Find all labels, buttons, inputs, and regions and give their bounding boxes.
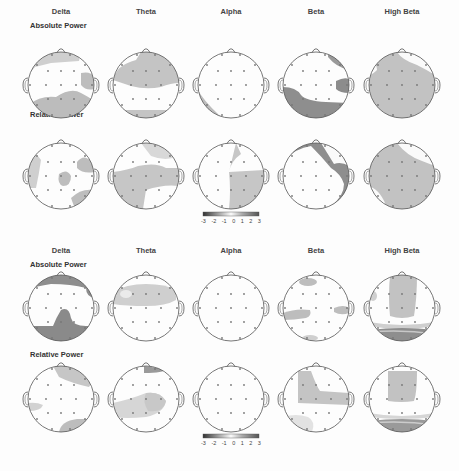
colorbar-1-ticks: -3 -2 -1 0 1 2 3 — [201, 218, 261, 224]
tick: -1 — [222, 218, 227, 224]
topomap-g2-abs-delta — [23, 272, 99, 341]
topomap-g1-rel-beta — [278, 140, 354, 209]
topomap-g2-rel-delta — [23, 363, 99, 432]
tick: 3 — [258, 218, 261, 224]
tick: -1 — [222, 440, 227, 446]
colorbar-2-ticks: -3 -2 -1 0 1 2 3 — [201, 440, 261, 446]
tick: 2 — [249, 218, 252, 224]
tick: -2 — [211, 440, 216, 446]
topomap-g1-abs-delta — [23, 49, 99, 118]
tick: -3 — [201, 440, 206, 446]
tick: 1 — [241, 218, 244, 224]
colorbar-2 — [203, 434, 259, 438]
topomap-g2-rel-alpha — [193, 363, 269, 432]
topomap-g1-abs-theta — [108, 49, 184, 118]
tick: 0 — [232, 440, 235, 446]
topomap-g2-abs-theta — [108, 272, 184, 341]
topomap-g1-rel-high-beta — [364, 140, 440, 209]
topomap-g1-abs-high-beta — [364, 49, 440, 118]
tick: 1 — [241, 440, 244, 446]
topomap-g2-abs-alpha — [193, 272, 269, 341]
colorbar-1 — [203, 212, 259, 216]
tick: 3 — [258, 440, 261, 446]
tick: -3 — [201, 218, 206, 224]
topomap-g2-rel-theta — [108, 363, 184, 432]
topomap-g2-abs-beta — [278, 272, 354, 341]
topomap-g1-rel-delta — [23, 140, 99, 209]
tick: -2 — [211, 218, 216, 224]
topomap-grid — [0, 0, 459, 471]
topomap-g1-rel-alpha — [193, 140, 269, 209]
topomap-g1-abs-beta — [278, 49, 354, 118]
tick: 2 — [249, 440, 252, 446]
topomap-g2-abs-high-beta — [364, 272, 440, 341]
topomap-g2-rel-high-beta — [364, 363, 440, 432]
tick: 0 — [232, 218, 235, 224]
topomap-g1-rel-theta — [108, 140, 184, 209]
topomap-g2-rel-beta — [278, 363, 354, 432]
topomap-g1-abs-alpha — [193, 49, 269, 118]
